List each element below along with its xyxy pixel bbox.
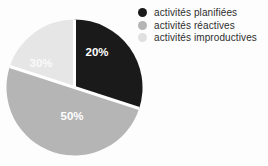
pie-chart-svg: 20% 50% 30%	[6, 19, 143, 156]
chart-legend: activités planifiées activités réactives…	[138, 7, 266, 45]
pie-value-label-activites-planifiees: 20%	[85, 46, 108, 58]
legend-label-activites-planifiees: activités planifiées	[154, 7, 237, 19]
legend-item-activites-reactives[interactable]: activités réactives	[138, 20, 266, 32]
legend-label-activites-improductives: activités improductives	[154, 32, 257, 44]
legend-swatch-icon-activites-improductives	[138, 33, 147, 42]
pie-value-label-activites-reactives: 50%	[60, 110, 83, 122]
legend-swatch-icon-activites-reactives	[138, 21, 147, 30]
pie-chart-figure: 20% 50% 30% activités planifiées activit…	[0, 0, 268, 166]
pie-chart-plot-area: 20% 50% 30%	[6, 19, 143, 156]
pie-value-label-activites-improductives: 30%	[29, 57, 52, 69]
legend-swatch-icon-activites-planifiees	[138, 8, 147, 17]
legend-item-activites-planifiees[interactable]: activités planifiées	[138, 7, 266, 19]
legend-label-activites-reactives: activités réactives	[154, 20, 235, 32]
legend-item-activites-improductives[interactable]: activités improductives	[138, 32, 266, 44]
